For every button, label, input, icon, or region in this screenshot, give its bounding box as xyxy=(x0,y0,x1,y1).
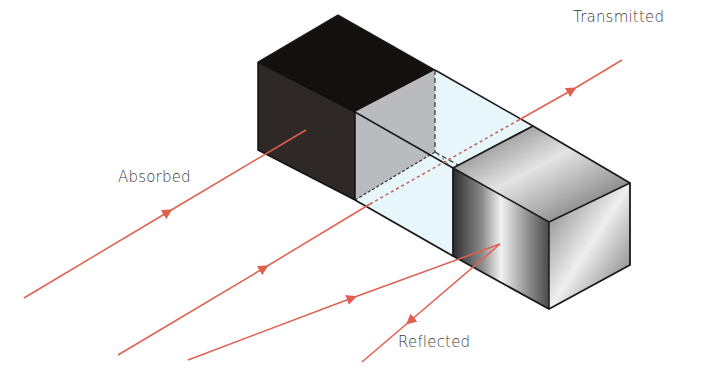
absorbed-ray xyxy=(24,130,306,298)
absorbed-label: Absorbed xyxy=(118,168,191,186)
reflected-label: Reflected xyxy=(398,333,470,351)
transmitted-label: Transmitted xyxy=(573,8,664,26)
reflective-block xyxy=(453,126,630,309)
material-diagram xyxy=(0,0,707,375)
